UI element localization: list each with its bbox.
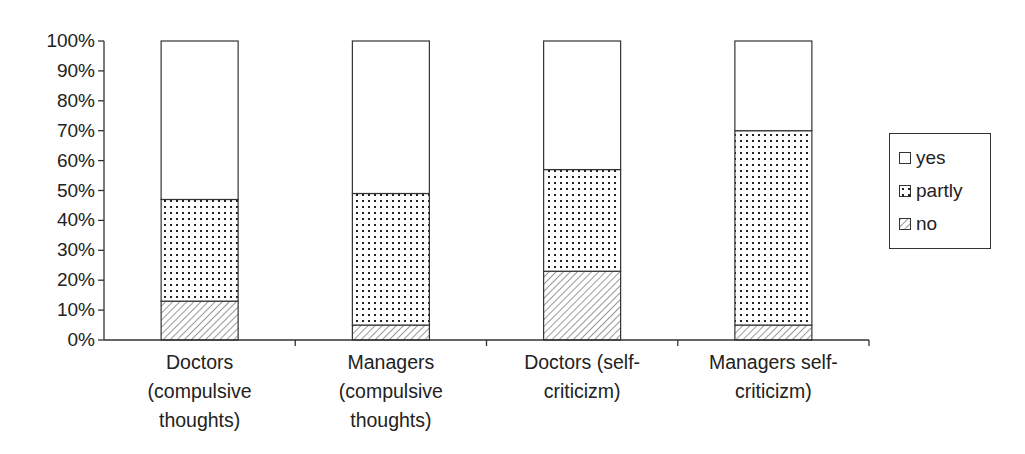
y-tick-label: 60%	[15, 151, 95, 171]
dots-swatch-icon	[899, 185, 911, 197]
bars-group	[161, 41, 812, 340]
bar-segment-yes	[544, 41, 621, 170]
y-tick-label: 50%	[15, 181, 95, 201]
y-tick-label: 70%	[15, 121, 95, 141]
x-category-label: Doctors (compulsive thoughts)	[105, 348, 295, 435]
hatch-swatch-icon	[899, 218, 911, 230]
bar-segment-no	[735, 325, 812, 340]
legend: yes partly no	[889, 133, 991, 249]
legend-label-yes: yes	[916, 147, 946, 169]
bar-segment-yes	[735, 41, 812, 131]
legend-label-no: no	[916, 213, 937, 235]
blank-swatch-icon	[899, 152, 911, 164]
legend-item-partly: partly	[899, 179, 962, 203]
legend-item-yes: yes	[899, 146, 946, 170]
y-tick-label: 20%	[15, 270, 95, 290]
y-tick-label: 100%	[15, 31, 95, 51]
bar-segment-yes	[161, 41, 238, 199]
legend-label-partly: partly	[916, 180, 962, 202]
y-tick-label: 40%	[15, 210, 95, 230]
bar-segment-partly	[735, 131, 812, 325]
y-tick-label: 10%	[15, 300, 95, 320]
bar-segment-partly	[161, 199, 238, 301]
bar-segment-yes	[352, 41, 429, 193]
y-tick-label: 90%	[15, 61, 95, 81]
x-category-label: Managers (compulsive thoughts)	[296, 348, 486, 435]
bar-segment-partly	[544, 170, 621, 272]
x-category-label: Doctors (self- criticizm)	[487, 348, 677, 406]
bar-segment-no	[352, 325, 429, 340]
bar-segment-partly	[352, 193, 429, 325]
y-tick-label: 80%	[15, 91, 95, 111]
x-category-label: Managers self- criticizm)	[678, 348, 868, 406]
y-tick-label: 0%	[15, 330, 95, 350]
bar-segment-no	[161, 301, 238, 340]
y-tick-label: 30%	[15, 240, 95, 260]
bar-segment-no	[544, 271, 621, 340]
legend-item-no: no	[899, 212, 937, 236]
